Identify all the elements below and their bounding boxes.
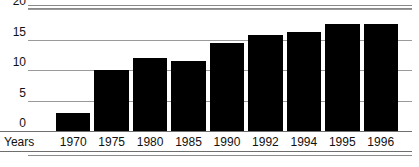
bar-cell (56, 9, 90, 131)
x-axis-baseline (0, 131, 412, 132)
bar-series (56, 9, 398, 131)
bar-1970[interactable] (56, 113, 90, 131)
bar-cell (94, 9, 128, 131)
y-tick-15: 15 (0, 26, 26, 38)
top-rule-upper (28, 5, 412, 6)
y-tick-5: 5 (0, 87, 26, 99)
y-tick-20: 20 (0, 0, 26, 7)
x-axis-title: Years (4, 133, 34, 151)
bottom-rule (28, 155, 412, 156)
bar-1975[interactable] (94, 70, 128, 131)
y-tick-10: 10 (0, 56, 26, 68)
bar-1994[interactable] (287, 32, 321, 131)
plot-area (56, 9, 398, 131)
x-tick-1995: 1995 (325, 133, 359, 151)
bar-1980[interactable] (133, 58, 167, 131)
x-axis-label-rule (0, 151, 412, 152)
bar-cell (133, 9, 167, 131)
x-tick-1985: 1985 (171, 133, 205, 151)
bar-cell (210, 9, 244, 131)
bar-1990[interactable] (210, 43, 244, 131)
bar-1995[interactable] (325, 24, 359, 131)
bar-chart: 05101520 Years 1970197519801985199019921… (0, 0, 419, 167)
x-tick-1980: 1980 (133, 133, 167, 151)
x-tick-1992: 1992 (248, 133, 282, 151)
x-tick-1970: 1970 (56, 133, 90, 151)
x-tick-1990: 1990 (210, 133, 244, 151)
bar-cell (287, 9, 321, 131)
bar-1985[interactable] (171, 61, 205, 131)
y-tick-0: 0 (0, 117, 26, 129)
x-tick-1975: 1975 (94, 133, 128, 151)
bar-1992[interactable] (248, 35, 282, 131)
bar-cell (171, 9, 205, 131)
bar-1996[interactable] (364, 24, 398, 131)
bar-cell (248, 9, 282, 131)
bar-cell (325, 9, 359, 131)
x-tick-1994: 1994 (287, 133, 321, 151)
bar-cell (364, 9, 398, 131)
x-axis-tick-labels: 197019751980198519901992199419951996 (56, 133, 398, 151)
x-tick-1996: 1996 (364, 133, 398, 151)
